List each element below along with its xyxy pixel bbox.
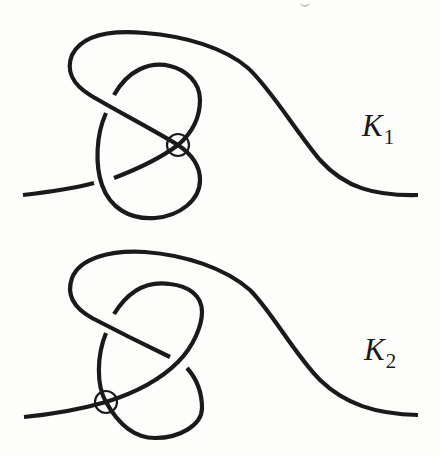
k1-label: K1 bbox=[362, 110, 394, 141]
k2-label-subscript: 2 bbox=[386, 349, 397, 373]
knot-k2 bbox=[24, 252, 418, 438]
k1-label-subscript: 1 bbox=[384, 125, 395, 149]
knot-diagrams bbox=[0, 0, 440, 456]
knot-figure: K1 K2 bbox=[0, 0, 440, 456]
k2-label: K2 bbox=[364, 334, 396, 365]
knot-k1 bbox=[23, 32, 418, 218]
k2-rising-strand bbox=[24, 283, 202, 417]
k1-rising-strand bbox=[114, 65, 200, 178]
k2-label-main: K bbox=[364, 332, 385, 367]
k1-left-tail bbox=[23, 183, 94, 195]
k1-label-main: K bbox=[362, 108, 383, 143]
